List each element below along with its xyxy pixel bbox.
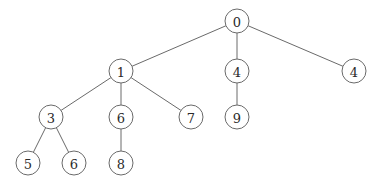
tree-node: 3 [39, 105, 63, 129]
tree-node: 0 [225, 9, 249, 33]
tree-node: 4 [225, 59, 249, 83]
tree-node: 9 [225, 105, 249, 129]
node-label: 0 [233, 15, 241, 30]
tree-node: 7 [179, 105, 203, 129]
tree-node: 4 [342, 59, 366, 83]
tree-node: 6 [62, 151, 86, 175]
node-label: 6 [117, 111, 125, 126]
tree-edge [61, 78, 111, 111]
node-label: 7 [187, 111, 195, 126]
node-label: 3 [47, 111, 55, 126]
tree-node: 8 [109, 151, 133, 175]
node-label: 5 [24, 157, 32, 172]
tree-nodes: 01443679568 [16, 9, 366, 175]
figure-caption-cutoff [40, 189, 340, 195]
node-label: 8 [117, 157, 125, 172]
node-label: 4 [350, 65, 358, 80]
tree-node: 1 [109, 59, 133, 83]
tree-edge [248, 26, 343, 67]
node-label: 1 [117, 65, 125, 80]
tree-edge [131, 78, 181, 111]
tree-edges [33, 26, 343, 153]
tree-edge [56, 128, 68, 153]
tree-edge [132, 26, 226, 67]
node-label: 6 [70, 157, 78, 172]
tree-diagram: 01443679568 [0, 0, 376, 195]
tree-node: 5 [16, 151, 40, 175]
node-label: 4 [233, 65, 241, 80]
tree-edge [33, 128, 45, 153]
node-label: 9 [233, 111, 241, 126]
tree-node: 6 [109, 105, 133, 129]
